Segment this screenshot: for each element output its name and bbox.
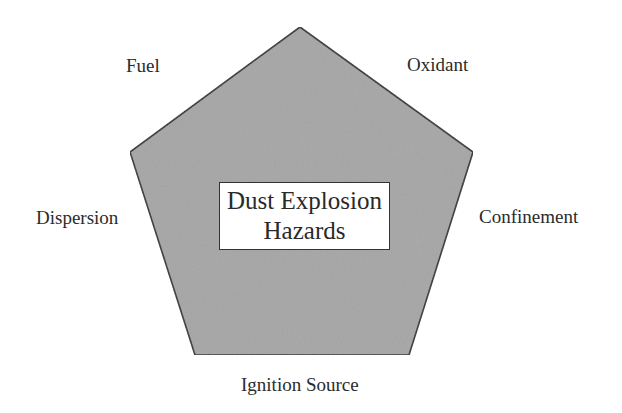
center-title-box: Dust Explosion Hazards — [219, 182, 390, 250]
label-dispersion: Dispersion — [36, 208, 118, 227]
label-fuel: Fuel — [126, 56, 160, 75]
label-confinement: Confinement — [479, 207, 578, 226]
label-oxidant: Oxidant — [407, 55, 468, 74]
center-title-line-2: Hazards — [264, 216, 346, 246]
label-ignition-source: Ignition Source — [241, 375, 359, 394]
center-title-line-1: Dust Explosion — [227, 186, 382, 216]
